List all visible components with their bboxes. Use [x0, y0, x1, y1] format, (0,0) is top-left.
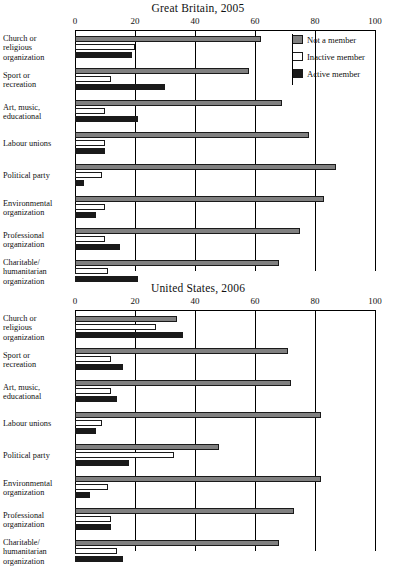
bar-not — [75, 476, 321, 482]
bar-not — [75, 228, 300, 234]
category-label-line: organization — [3, 488, 71, 498]
bar-group: Church orreligiousorganization — [75, 316, 375, 348]
bar-inactive — [75, 324, 156, 330]
x-axis-line — [75, 30, 375, 31]
legend-swatch-inactive-member — [292, 52, 303, 61]
bar-active — [75, 116, 138, 122]
category-label: Sport orrecreation — [3, 351, 75, 370]
category-label-line: Art, music, — [3, 103, 71, 113]
category-label: Labour unions — [3, 419, 75, 429]
category-label: Environmentalorganization — [3, 199, 75, 218]
category-label-line: Labour unions — [3, 139, 71, 149]
bar-not — [75, 540, 279, 546]
category-label-line: organization — [3, 333, 71, 343]
category-label-line: Professional — [3, 511, 71, 521]
bar-group: Environmentalorganization — [75, 476, 375, 508]
category-label-line: Church or — [3, 314, 71, 324]
bar-active — [75, 212, 96, 218]
bar-inactive — [75, 76, 111, 82]
bar-active — [75, 524, 111, 530]
bar-not — [75, 132, 309, 138]
bar-group: Art, music,educational — [75, 380, 375, 412]
category-label: Labour unions — [3, 139, 75, 149]
category-label: Political party — [3, 451, 75, 461]
chart-title-great-britain: Great Britain, 2005 — [0, 2, 396, 14]
chart-panel-great-britain: Great Britain, 2005 020406080100Church o… — [0, 0, 396, 280]
bar-inactive — [75, 484, 108, 490]
bar-group: Sport orrecreation — [75, 348, 375, 380]
bar-not — [75, 164, 336, 170]
bar-inactive — [75, 268, 108, 274]
bar-active — [75, 84, 165, 90]
category-label-line: Church or — [3, 34, 71, 44]
category-label: Sport orrecreation — [3, 71, 75, 90]
category-label-line: educational — [3, 112, 71, 122]
category-label-line: recreation — [3, 360, 71, 370]
bar-not — [75, 316, 177, 322]
bar-active — [75, 396, 117, 402]
bar-inactive — [75, 516, 111, 522]
category-label-line: Charitable/ — [3, 538, 71, 548]
category-label-line: Art, music, — [3, 383, 71, 393]
bar-not — [75, 412, 321, 418]
category-label-line: organization — [3, 53, 71, 63]
legend-entry-not-a-member: Not a member — [292, 34, 388, 45]
category-label-line: organization — [3, 208, 71, 218]
bar-inactive — [75, 172, 102, 178]
bar-not — [75, 508, 294, 514]
x-axis-tick-label: 40 — [191, 16, 200, 26]
x-axis-tick-label: 20 — [131, 296, 140, 306]
x-axis-tick-label: 100 — [368, 16, 382, 26]
category-label-line: Political party — [3, 171, 71, 181]
bar-inactive — [75, 108, 105, 114]
legend-swatch-not-a-member — [292, 35, 303, 44]
category-label-line: Environmental — [3, 479, 71, 489]
bar-group: Art, music,educational — [75, 100, 375, 132]
category-label: Professionalorganization — [3, 231, 75, 250]
plot-area-united-states: 020406080100Church orreligiousorganizati… — [75, 310, 375, 551]
category-label-line: Political party — [3, 451, 71, 461]
x-axis-tick — [75, 310, 76, 314]
x-axis-tick-label: 80 — [311, 296, 320, 306]
bar-group: Political party — [75, 164, 375, 196]
bar-not — [75, 196, 324, 202]
bar-inactive — [75, 140, 105, 146]
category-label: Art, music,educational — [3, 383, 75, 402]
bar-active — [75, 180, 84, 186]
x-axis-tick-label: 60 — [251, 16, 260, 26]
category-label-line: educational — [3, 392, 71, 402]
x-axis-tick-label: 80 — [311, 16, 320, 26]
category-label: Professionalorganization — [3, 511, 75, 530]
category-label-line: religious — [3, 43, 71, 53]
category-label-line: religious — [3, 323, 71, 333]
chart-title-united-states: United States, 2006 — [0, 282, 396, 294]
bar-group: Charitable/humanitarianorganization — [75, 540, 375, 570]
bar-active — [75, 428, 96, 434]
gridline-vertical — [375, 310, 376, 551]
x-axis-tick-label: 20 — [131, 16, 140, 26]
bar-inactive — [75, 388, 111, 394]
bar-inactive — [75, 44, 135, 50]
category-label-line: Labour unions — [3, 419, 71, 429]
bar-active — [75, 148, 105, 154]
legend-swatch-active-member — [292, 69, 303, 78]
category-label-line: organization — [3, 557, 71, 567]
legend-label-active-member: Active member — [307, 69, 360, 79]
bar-group: Labour unions — [75, 132, 375, 164]
category-label-line: Charitable/ — [3, 258, 71, 268]
bar-inactive — [75, 356, 111, 362]
category-label-line: Professional — [3, 231, 71, 241]
bar-not — [75, 260, 279, 266]
x-axis-tick-label: 60 — [251, 296, 260, 306]
category-label-line: humanitarian — [3, 547, 71, 557]
category-label-line: organization — [3, 240, 71, 250]
bar-not — [75, 68, 249, 74]
bar-group: Professionalorganization — [75, 228, 375, 260]
x-axis-line — [75, 310, 375, 311]
bar-group: Environmentalorganization — [75, 196, 375, 228]
bar-active — [75, 492, 90, 498]
category-label-line: recreation — [3, 80, 71, 90]
bar-inactive — [75, 452, 174, 458]
category-label: Charitable/humanitarianorganization — [3, 538, 75, 567]
bar-group: Labour unions — [75, 412, 375, 444]
